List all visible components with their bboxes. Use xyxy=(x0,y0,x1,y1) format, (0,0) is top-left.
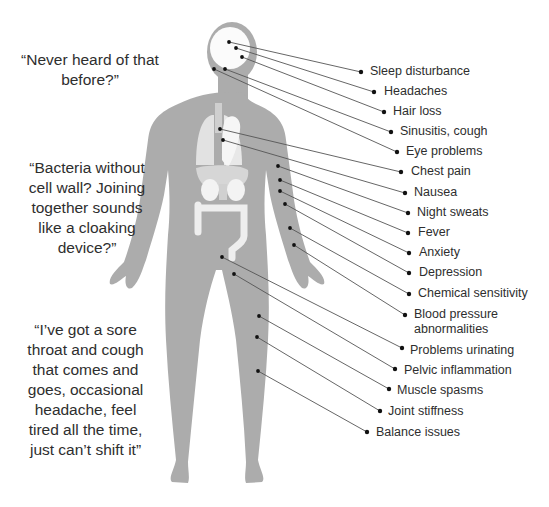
body-point-dot-pelvic-inflammation xyxy=(232,272,236,276)
label-dot-nausea xyxy=(403,191,407,195)
label-dot-headaches xyxy=(372,90,376,94)
label-dot-sleep-disturbance xyxy=(359,70,363,74)
body-point-dot-blood-pressure-abnormalities xyxy=(292,243,296,247)
label-dot-problems-urinating xyxy=(400,346,404,350)
symptom-label-headaches: Headaches xyxy=(384,84,447,99)
body-point-dot-eye-problems xyxy=(212,67,216,71)
quote-sore-throat: “I’ve got a sore throat and cough that c… xyxy=(18,320,153,460)
label-dot-hair-loss xyxy=(382,110,386,114)
body-point-dot-problems-urinating xyxy=(220,255,224,259)
body-point-dot-nausea xyxy=(221,138,225,142)
label-dot-depression xyxy=(407,271,411,275)
body-point-dot-balance-issues xyxy=(256,369,260,373)
symptom-label-balance-issues: Balance issues xyxy=(376,425,460,440)
symptom-label-eye-problems: Eye problems xyxy=(406,144,482,159)
label-dot-eye-problems xyxy=(395,150,399,154)
label-dot-chemical-sensitivity xyxy=(407,292,411,296)
body-point-dot-sinusitis-cough xyxy=(223,67,227,71)
symptom-label-fever: Fever xyxy=(418,225,450,240)
body-point-dot-headaches xyxy=(234,46,238,50)
label-dot-joint-stiffness xyxy=(378,409,382,413)
body-point-dot-anxiety xyxy=(278,189,282,193)
label-dot-chest-pain xyxy=(399,170,403,174)
label-dot-pelvic-inflammation xyxy=(393,367,397,371)
symptom-label-hair-loss: Hair loss xyxy=(393,104,442,119)
connector-balance-issues xyxy=(258,371,367,432)
body-point-dot-fever xyxy=(278,178,282,182)
label-dot-sinusitis-cough xyxy=(389,130,393,134)
body-point-dot-chest-pain xyxy=(218,127,222,131)
label-dot-balance-issues xyxy=(365,430,369,434)
symptom-label-joint-stiffness: Joint stiffness xyxy=(388,404,464,419)
symptom-label-chemical-sensitivity: Chemical sensitivity xyxy=(418,286,528,301)
symptom-label-chest-pain: Chest pain xyxy=(411,164,471,179)
symptom-label-sinusitis-cough: Sinusitis, cough xyxy=(400,124,488,139)
symptom-label-sleep-disturbance: Sleep disturbance xyxy=(370,64,470,79)
symptom-label-muscle-spasms: Muscle spasms xyxy=(397,383,483,398)
label-dot-night-sweats xyxy=(406,211,410,215)
body-point-dot-sleep-disturbance xyxy=(227,40,231,44)
symptom-label-anxiety: Anxiety xyxy=(419,245,460,260)
label-dot-blood-pressure-abnormalities xyxy=(403,313,407,317)
quote-never-heard: “Never heard of that before?” xyxy=(20,50,160,90)
symptom-label-nausea: Nausea xyxy=(414,185,457,200)
label-dot-muscle-spasms xyxy=(387,387,391,391)
connector-blood-pressure-abnormalities xyxy=(294,245,405,315)
body-point-dot-joint-stiffness xyxy=(255,335,259,339)
symptom-label-depression: Depression xyxy=(419,265,482,280)
label-dot-anxiety xyxy=(407,251,411,255)
body-point-dot-night-sweats xyxy=(276,164,280,168)
quote-bacteria: “Bacteria without cell wall? Joining tog… xyxy=(22,158,152,258)
symptom-label-pelvic-inflammation: Pelvic inflammation xyxy=(404,363,512,378)
symptom-label-problems-urinating: Problems urinating xyxy=(410,343,514,358)
body-point-dot-muscle-spasms xyxy=(257,314,261,318)
body-point-dot-depression xyxy=(283,202,287,206)
symptom-label-night-sweats: Night sweats xyxy=(417,205,489,220)
connector-hair-loss xyxy=(242,57,384,112)
symptom-label-blood-pressure-abnormalities: Blood pressure abnormalities xyxy=(414,307,509,337)
body-point-dot-chemical-sensitivity xyxy=(288,226,292,230)
symptom-body-diagram: “Never heard of that before?”“Bacteria w… xyxy=(0,0,549,507)
body-point-dot-hair-loss xyxy=(240,55,244,59)
label-dot-fever xyxy=(406,231,410,235)
